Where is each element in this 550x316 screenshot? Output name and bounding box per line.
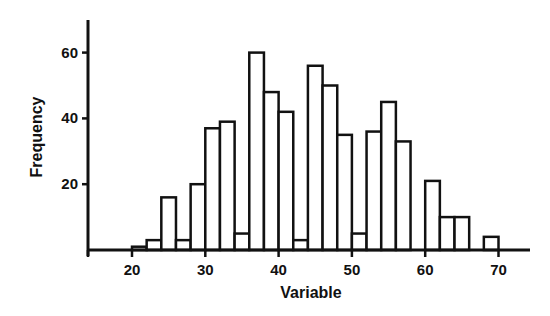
- histogram-bar: [205, 128, 220, 250]
- histogram-bar: [455, 217, 470, 250]
- y-axis-title: Frequency: [28, 96, 45, 177]
- histogram-bar: [249, 53, 264, 250]
- histogram-bar: [396, 141, 411, 250]
- y-axis-ticks: 204060: [61, 44, 88, 193]
- histogram-bar: [235, 234, 250, 250]
- histogram-bar: [440, 217, 455, 250]
- x-tick-label: 50: [344, 261, 361, 278]
- y-tick-label: 20: [61, 175, 78, 192]
- histogram-bar: [337, 135, 352, 250]
- y-tick-label: 60: [61, 44, 78, 61]
- x-axis-ticks: 203040506070: [88, 250, 507, 278]
- histogram-bar: [191, 184, 206, 250]
- histogram-bar: [484, 237, 499, 250]
- histogram-bar: [323, 86, 338, 251]
- x-tick-label: 30: [197, 261, 214, 278]
- histogram-bar: [367, 132, 382, 250]
- x-tick-label: 70: [490, 261, 507, 278]
- histogram-bar: [220, 122, 235, 250]
- histogram-bar: [279, 112, 294, 250]
- histogram-chart: 203040506070 204060 Variable Frequency: [0, 0, 550, 316]
- histogram-bar: [161, 197, 176, 250]
- histogram-bars: [132, 53, 499, 250]
- histogram-bar: [352, 234, 367, 250]
- x-tick-label: 40: [270, 261, 287, 278]
- x-tick-label: 20: [124, 261, 141, 278]
- x-tick-label: 60: [417, 261, 434, 278]
- x-axis-title: Variable: [280, 284, 341, 301]
- histogram-bar: [308, 66, 323, 250]
- y-tick-label: 40: [61, 109, 78, 126]
- histogram-bar: [381, 102, 396, 250]
- histogram-bar: [264, 92, 279, 250]
- histogram-bar: [425, 181, 440, 250]
